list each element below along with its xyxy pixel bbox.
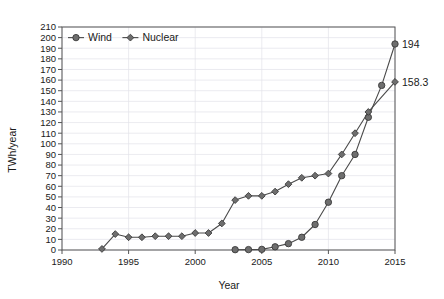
data-point-wind	[299, 234, 305, 240]
data-point-wind	[245, 246, 251, 252]
y-tick-label: 130	[40, 106, 56, 117]
line-chart: 0102030405060708090100110120130140150160…	[0, 0, 444, 299]
y-tick-label: 210	[40, 21, 56, 32]
y-tick-label: 10	[45, 234, 56, 245]
y-tick-label: 90	[45, 149, 56, 160]
data-point-wind	[312, 221, 318, 227]
end-value-label-nuclear: 158.3	[402, 76, 428, 88]
y-tick-label: 200	[40, 32, 56, 43]
y-tick-label: 140	[40, 96, 56, 107]
y-tick-label: 100	[40, 138, 56, 149]
data-point-wind	[232, 246, 238, 252]
y-tick-label: 30	[45, 213, 56, 224]
data-point-wind	[285, 240, 291, 246]
y-tick-label: 60	[45, 181, 56, 192]
y-tick-label: 20	[45, 223, 56, 234]
y-tick-label: 160	[40, 74, 56, 85]
y-tick-label: 110	[41, 128, 56, 139]
data-point-wind	[272, 244, 278, 250]
y-tick-label: 50	[45, 191, 56, 202]
data-point-wind	[339, 172, 345, 178]
legend-marker-wind	[73, 34, 79, 40]
x-tick-label: 2015	[384, 256, 405, 267]
x-tick-label: 2000	[185, 256, 206, 267]
y-tick-label: 80	[45, 159, 56, 170]
data-point-wind	[259, 246, 265, 252]
data-point-wind	[325, 199, 331, 205]
y-tick-label: 0	[51, 244, 56, 255]
x-tick-label: 2005	[251, 256, 272, 267]
y-tick-label: 40	[45, 202, 56, 213]
x-axis-title: Year	[218, 279, 240, 291]
y-tick-label: 170	[40, 64, 56, 75]
legend-label-nuclear: Nuclear	[142, 31, 179, 43]
legend-label-wind: Wind	[88, 31, 112, 43]
y-tick-label: 120	[40, 117, 56, 128]
end-value-label-wind: 194	[402, 38, 420, 50]
y-axis-title: TWh/year	[6, 127, 18, 173]
chart-background	[0, 0, 444, 299]
x-tick-label: 2010	[318, 256, 339, 267]
y-tick-label: 190	[40, 43, 56, 54]
y-tick-label: 150	[40, 85, 56, 96]
data-point-wind	[352, 151, 358, 157]
chart-container: 0102030405060708090100110120130140150160…	[0, 0, 444, 299]
y-tick-label: 180	[40, 53, 56, 64]
y-tick-label: 70	[45, 170, 56, 181]
data-point-wind	[392, 41, 398, 47]
x-tick-label: 1990	[51, 256, 72, 267]
x-tick-label: 1995	[118, 256, 139, 267]
data-point-wind	[378, 82, 384, 88]
